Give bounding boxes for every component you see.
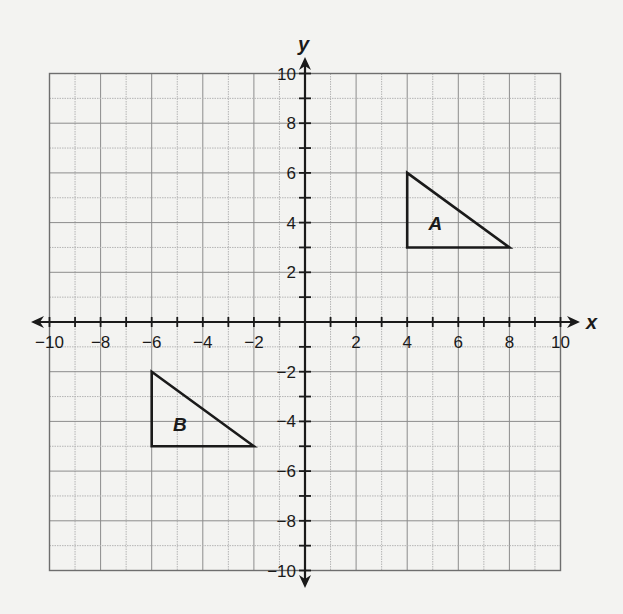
x-tick-label: −2 bbox=[244, 333, 263, 352]
x-tick-label: −10 bbox=[35, 333, 64, 352]
x-tick-label: 8 bbox=[505, 333, 514, 352]
y-tick-label: 6 bbox=[287, 164, 296, 183]
y-tick-label: 8 bbox=[287, 114, 296, 133]
coordinate-plane: −10−8−6−4−2246810108642−2−4−6−8−10 AB x … bbox=[0, 0, 623, 614]
y-axis-label: y bbox=[297, 33, 310, 55]
x-axis-label: x bbox=[585, 311, 598, 333]
x-tick-label: 4 bbox=[402, 333, 411, 352]
y-tick-label: −2 bbox=[277, 363, 296, 382]
axes bbox=[31, 57, 580, 588]
y-tick-label: 4 bbox=[287, 214, 296, 233]
triangle-b-label: B bbox=[173, 414, 187, 435]
triangle-a-label: A bbox=[427, 213, 442, 234]
y-tick-label: 2 bbox=[287, 263, 296, 282]
x-tick-label: −8 bbox=[91, 333, 110, 352]
y-tick-label: −8 bbox=[277, 512, 296, 531]
y-tick-label: −4 bbox=[277, 412, 296, 431]
x-tick-label: 6 bbox=[454, 333, 463, 352]
y-tick-label: −6 bbox=[277, 462, 296, 481]
x-tick-label: 10 bbox=[551, 333, 570, 352]
y-tick-label: −10 bbox=[267, 562, 296, 581]
x-tick-label: −6 bbox=[142, 333, 161, 352]
x-tick-label: 2 bbox=[351, 333, 360, 352]
y-tick-label: 10 bbox=[277, 65, 296, 84]
x-tick-label: −4 bbox=[193, 333, 212, 352]
